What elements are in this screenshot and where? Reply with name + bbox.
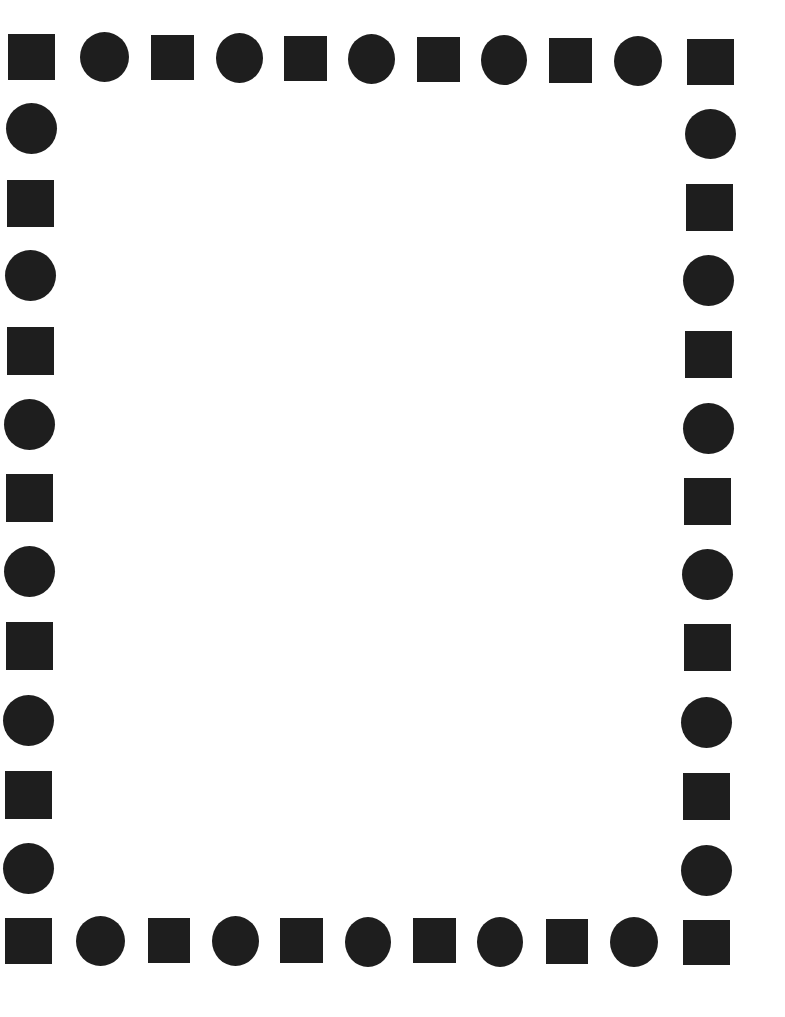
circle-shape	[682, 549, 733, 600]
circle-shape	[4, 546, 55, 597]
blank-content-area	[75, 105, 675, 905]
square-shape	[683, 773, 730, 820]
circle-shape	[348, 34, 395, 84]
circle-shape	[5, 250, 56, 301]
circle-shape	[216, 33, 263, 83]
square-shape	[280, 918, 323, 963]
square-shape	[684, 624, 731, 671]
square-shape	[148, 918, 190, 963]
circle-shape	[345, 917, 391, 967]
square-shape	[687, 39, 734, 85]
circle-shape	[481, 35, 527, 85]
square-shape	[5, 771, 52, 819]
circle-shape	[683, 403, 734, 454]
circle-shape	[4, 399, 55, 450]
square-shape	[417, 37, 460, 82]
circle-shape	[681, 697, 732, 748]
square-shape	[5, 918, 52, 964]
square-shape	[284, 36, 327, 81]
square-shape	[151, 35, 194, 80]
square-shape	[7, 180, 54, 227]
square-shape	[413, 918, 456, 963]
square-shape	[685, 331, 732, 378]
circle-shape	[3, 695, 54, 746]
circle-shape	[6, 103, 57, 154]
circle-shape	[80, 32, 129, 82]
square-shape	[7, 327, 54, 375]
square-shape	[546, 919, 588, 964]
circle-shape	[76, 916, 125, 966]
square-shape	[686, 184, 733, 231]
circle-shape	[212, 916, 259, 966]
circle-shape	[685, 109, 736, 159]
square-shape	[684, 478, 731, 525]
square-shape	[8, 34, 55, 80]
square-shape	[6, 474, 53, 522]
circle-shape	[477, 917, 523, 967]
circle-shape	[3, 843, 54, 894]
square-shape	[683, 920, 730, 965]
square-shape	[6, 622, 53, 670]
circle-shape	[681, 845, 732, 896]
circle-shape	[614, 36, 662, 86]
square-shape	[549, 38, 592, 83]
page-border-frame	[0, 0, 785, 1017]
circle-shape	[610, 917, 658, 967]
circle-shape	[683, 255, 734, 306]
